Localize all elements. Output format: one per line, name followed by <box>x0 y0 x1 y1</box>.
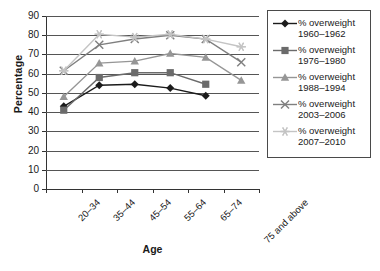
data-point-diamond <box>281 20 289 28</box>
y-tick-label: 90 <box>28 11 39 21</box>
legend-item[interactable]: % overweight1976–1980 <box>272 44 366 66</box>
data-point-square <box>167 69 174 76</box>
x-axis-title: Age <box>46 243 259 255</box>
data-point-x <box>237 58 245 66</box>
legend-label: % overweight1988–1994 <box>298 71 355 93</box>
x-tick-mark <box>188 189 189 193</box>
legend-marker-star-icon <box>272 126 298 137</box>
legend-item[interactable]: % overweight1960–1962 <box>272 17 366 39</box>
x-tick-label: 55–64 <box>184 196 209 221</box>
legend-item[interactable]: % overweight2007–2010 <box>272 125 366 147</box>
data-point-square <box>281 47 288 54</box>
legend-label: % overweight1976–1980 <box>298 44 355 66</box>
series-line <box>64 34 242 71</box>
y-tick-label: 20 <box>28 146 39 156</box>
data-point-diamond <box>131 80 139 88</box>
y-tick-label: 30 <box>28 126 39 136</box>
data-point-diamond <box>166 84 174 92</box>
legend-label-line2: 1988–1994 <box>298 82 355 93</box>
data-point-diamond <box>202 92 210 100</box>
legend-label-line1: % overweight <box>298 44 355 55</box>
data-point-star <box>237 43 246 51</box>
plot-area: 0102030405060708090 20–3435–4445–5455–64… <box>46 16 259 189</box>
legend-label-line2: 2003–2006 <box>298 109 355 120</box>
x-tick-mark <box>82 189 83 193</box>
y-tick-label: 40 <box>28 107 39 117</box>
legend-label-line1: % overweight <box>298 98 355 109</box>
legend-marker-square-icon <box>272 45 298 56</box>
legend-marker-diamond-icon <box>272 18 298 29</box>
x-tick-label: 65–74 <box>219 196 244 221</box>
x-tick-label: 20–34 <box>77 196 102 221</box>
legend-label: % overweight2007–2010 <box>298 125 355 147</box>
y-tick-label: 60 <box>28 69 39 79</box>
legend-marker-x-icon <box>272 99 298 110</box>
series-layer <box>46 16 259 189</box>
y-tick-label: 50 <box>28 88 39 98</box>
data-point-square <box>202 81 209 88</box>
x-tick-mark <box>117 189 118 193</box>
y-tick-label: 0 <box>33 184 39 194</box>
legend-label: % overweight1960–1962 <box>298 17 355 39</box>
x-tick-label: 45–54 <box>148 196 173 221</box>
data-point-triangle <box>166 49 174 57</box>
x-tick-mark <box>153 189 154 193</box>
legend-label-line1: % overweight <box>298 125 355 136</box>
y-axis-title: Percentage <box>12 34 24 134</box>
y-tick-label: 10 <box>28 165 39 175</box>
legend-label-line1: % overweight <box>298 17 355 28</box>
x-tick-mark <box>224 189 225 193</box>
legend-label-line1: % overweight <box>298 71 355 82</box>
legend-label-line2: 1960–1962 <box>298 28 355 39</box>
y-tick-label: 70 <box>28 49 39 59</box>
x-tick-mark <box>259 189 260 193</box>
legend-label-line2: 2007–2010 <box>298 136 355 147</box>
x-tick-label: 75 and above <box>264 196 311 243</box>
legend-marker-triangle-icon <box>272 72 298 83</box>
legend-label: % overweight2003–2006 <box>298 98 355 120</box>
line-chart: Percentage 0102030405060708090 20–3435–4… <box>0 0 380 271</box>
x-tick-label: 35–44 <box>113 196 138 221</box>
data-point-square <box>60 107 67 114</box>
data-point-square <box>96 74 103 81</box>
data-point-diamond <box>95 81 103 89</box>
legend-item[interactable]: % overweight1988–1994 <box>272 71 366 93</box>
data-point-triangle <box>237 76 245 84</box>
chart-legend: % overweight1960–1962% overweight1976–19… <box>267 10 371 158</box>
data-point-star <box>280 128 289 136</box>
x-tick-mark <box>46 189 47 193</box>
y-tick-label: 80 <box>28 30 39 40</box>
legend-label-line2: 1976–1980 <box>298 55 355 66</box>
data-point-square <box>131 69 138 76</box>
legend-item[interactable]: % overweight2003–2006 <box>272 98 366 120</box>
